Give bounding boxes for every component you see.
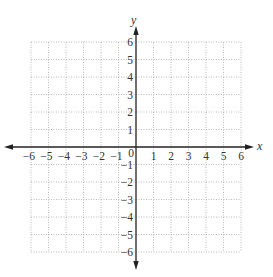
y-tick-label: 1	[127, 124, 133, 136]
y-tick-label: −3	[121, 194, 133, 206]
x-tick-label: −3	[75, 150, 87, 162]
x-tick-label: 5	[221, 150, 227, 162]
y-tick-label: −2	[121, 176, 133, 188]
x-axis-left-arrow-icon	[4, 144, 13, 149]
x-tick-label: −5	[40, 150, 52, 162]
x-tick-label: 1	[151, 150, 157, 162]
x-axis-right-arrow-icon	[245, 144, 254, 149]
x-tick-label: 2	[168, 150, 174, 162]
y-tick-label: −4	[121, 211, 133, 223]
x-axis-label: x	[256, 139, 263, 153]
coordinate-plane: x y −6−5−4−3−2−10123456 123456−1−2−3−4−5…	[0, 0, 273, 277]
y-tick-label: −5	[121, 229, 133, 241]
x-tick-labels: −6−5−4−3−2−10123456	[23, 147, 244, 162]
y-tick-label: 6	[127, 36, 133, 48]
y-axis-label: y	[130, 13, 137, 27]
y-tick-label: 4	[127, 71, 133, 83]
y-tick-label: 2	[127, 106, 133, 118]
y-axis-up-arrow-icon	[133, 26, 138, 35]
x-tick-label: 4	[203, 150, 209, 162]
x-tick-label: 3	[186, 150, 192, 162]
y-tick-label: −6	[121, 246, 133, 258]
y-tick-label: 5	[127, 54, 133, 66]
x-tick-label: 0	[128, 147, 134, 159]
y-tick-label: 3	[127, 89, 133, 101]
x-tick-label: −2	[93, 150, 105, 162]
y-axis-down-arrow-icon	[133, 261, 138, 270]
y-tick-label: −1	[121, 159, 133, 171]
x-tick-label: −6	[23, 150, 35, 162]
x-tick-label: −4	[58, 150, 70, 162]
x-tick-label: 6	[238, 150, 244, 162]
